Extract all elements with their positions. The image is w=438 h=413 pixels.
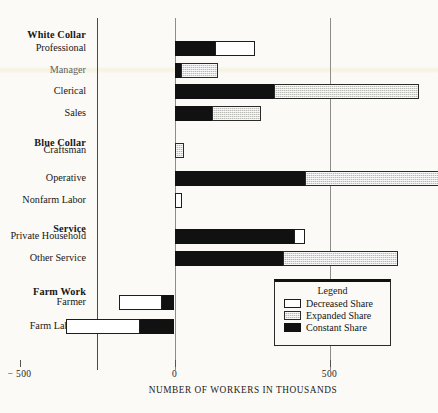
category-label-9: Farmer [0,297,86,307]
bar-chart: − 50005001,0001,500 White CollarProfessi… [0,0,438,413]
bar-professional-constant [175,41,215,56]
bar-private-household-constant [175,229,294,244]
category-label-3: Sales [0,108,86,118]
bar-other-service-expanded [283,251,398,266]
bar-clerical-constant [175,84,274,99]
legend-item-constant-share: Constant Share [275,322,390,333]
category-label-6: Nonfarm Labor [0,195,86,205]
category-label-4: Craftsman [0,145,86,155]
category-label-5: Operative [0,173,86,183]
legend-label-constant-share: Constant Share [306,322,367,333]
legend-item-expanded-share: Expanded Share [275,310,390,321]
x-tick-mark-1 [175,360,176,367]
legend-swatch-decreased-share [284,299,301,308]
legend-swatch-expanded-share [284,311,301,320]
bar-sales-constant [175,106,212,121]
legend-swatch-constant-share [284,323,301,332]
bar-manager-expanded [181,63,218,78]
x-tick-mark-2 [330,360,331,367]
bar-professional-decreased [215,41,255,56]
legend-title: Legend [275,285,390,296]
bar-private-household-decreased [294,229,305,244]
category-label-8: Other Service [0,253,86,263]
x-axis-title: NUMBER OF WORKERS IN THOUSANDS [0,385,438,395]
bar-other-service-constant [175,251,284,266]
x-tick-label-1: 0 [172,369,177,379]
x-tick-label-2: 500 [322,369,337,379]
bar-farm-laborer-decreased [66,319,140,334]
category-label-0: Professional [0,43,86,53]
bar-sales-expanded [212,106,262,121]
category-label-2: Clerical [0,86,86,96]
bar-farm-laborer-constant [140,319,174,334]
legend-label-expanded-share: Expanded Share [306,310,371,321]
legend-box: Legend Decreased Share Expanded Share Co… [274,279,391,346]
category-label-1: Manager [0,65,86,75]
bar-clerical-expanded [274,84,420,99]
bar-craftsman-expanded [175,143,184,158]
legend-label-decreased-share: Decreased Share [306,298,373,309]
x-tick-label-0: − 500 [8,369,32,379]
bar-nonfarm-labor-decreased [175,193,183,208]
category-axis-line [97,18,98,370]
legend-item-decreased-share: Decreased Share [275,298,390,309]
bar-farmer-decreased [119,295,162,310]
group-label-0: White Collar [0,30,86,40]
category-label-7: Private Household [0,231,86,241]
bar-farmer-constant [162,295,174,310]
bar-operative-expanded [305,171,438,186]
bar-operative-constant [175,171,305,186]
x-tick-mark-0 [20,360,21,367]
